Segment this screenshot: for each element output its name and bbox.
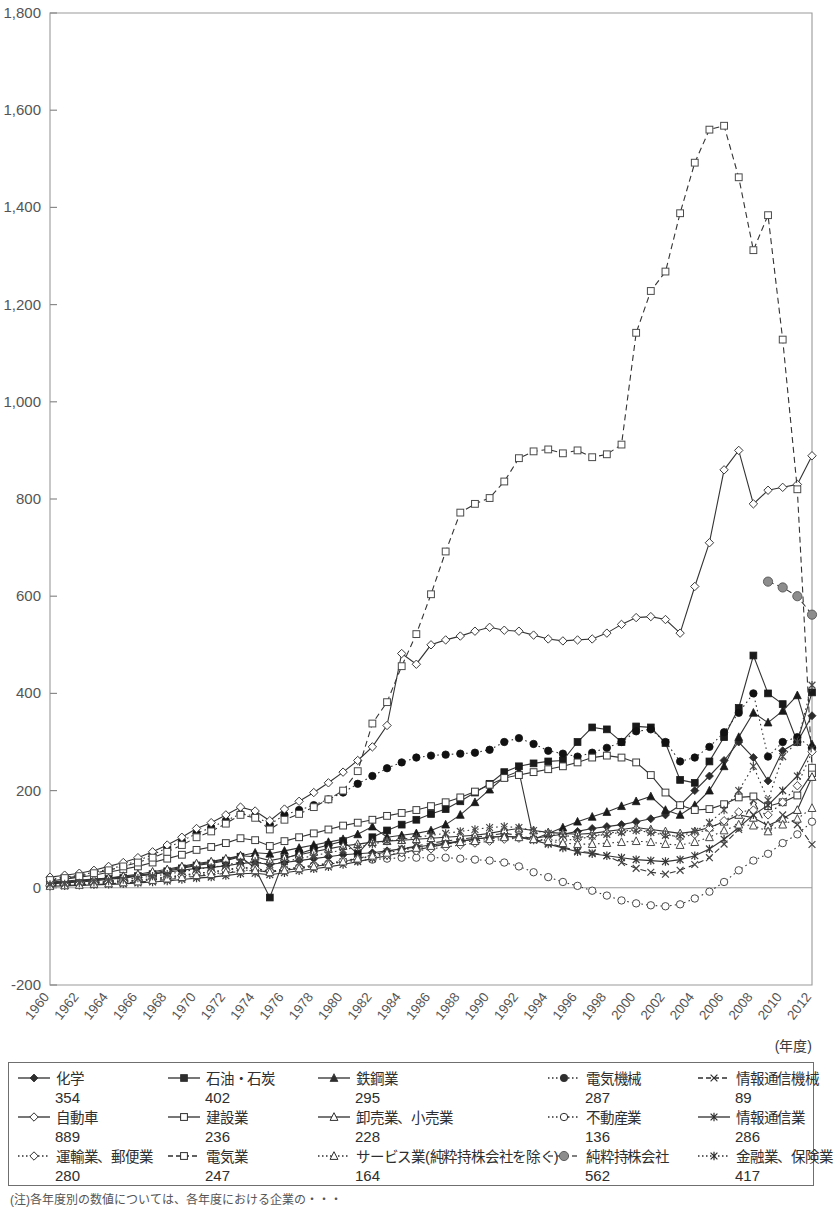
legend-item[interactable]: 電気機械287: [545, 1067, 695, 1106]
data-point-marker: [472, 788, 479, 795]
data-point-marker: [749, 821, 757, 829]
x-tick-label: 2004: [667, 989, 698, 1022]
data-point-marker: [501, 478, 508, 485]
legend-item[interactable]: 石油・石炭402: [165, 1067, 315, 1106]
x-tick-label: 1990: [462, 990, 492, 1023]
data-point-marker: [589, 754, 596, 761]
legend-item-value: 402: [205, 1089, 315, 1106]
data-point-marker: [691, 754, 698, 761]
data-point-marker: [705, 539, 713, 547]
legend-item[interactable]: 自動車889: [15, 1106, 165, 1145]
legend-item[interactable]: 情報通信業286: [695, 1106, 813, 1145]
legend-item[interactable]: 金融業、保険業417: [695, 1145, 813, 1184]
data-point-marker: [603, 726, 610, 733]
data-point-marker: [764, 718, 772, 726]
data-point-marker: [501, 859, 508, 866]
data-point-marker: [793, 691, 801, 699]
data-point-marker: [676, 841, 684, 849]
legend-item[interactable]: サービス業(純粋持株会社を除く)164: [315, 1145, 545, 1184]
data-point-marker: [632, 728, 639, 735]
data-point-marker: [324, 779, 332, 787]
legend-item-label: 石油・石炭: [206, 1067, 275, 1088]
data-point-marker: [369, 772, 376, 779]
data-point-marker: [721, 806, 728, 814]
data-point-marker: [765, 796, 772, 804]
series-14: [763, 577, 816, 619]
data-point-marker: [735, 733, 743, 741]
data-point-marker: [617, 620, 625, 628]
data-point-marker: [735, 446, 743, 454]
legend-item[interactable]: 電気業247: [165, 1145, 315, 1184]
data-point-marker: [413, 816, 420, 823]
legend-item[interactable]: 卸売業、小売業228: [315, 1106, 545, 1145]
data-point-marker: [794, 792, 801, 799]
x-tick-label: 1966: [110, 990, 140, 1023]
data-point-marker: [647, 815, 655, 823]
legend-symbol-icon: [697, 1110, 731, 1124]
data-point-marker: [808, 452, 816, 460]
data-point-marker: [208, 828, 215, 835]
data-point-marker: [793, 814, 801, 822]
legend-grid: 化学354石油・石炭402鉄鋼業295電気機械287情報通信機械89自動車889…: [9, 1063, 813, 1185]
legend-item-header: 情報通信業: [697, 1106, 813, 1127]
data-point-marker: [252, 837, 259, 844]
data-point-marker: [662, 840, 670, 848]
data-point-marker: [632, 837, 640, 845]
data-point-marker: [193, 846, 200, 853]
data-point-marker: [662, 903, 669, 910]
data-point-marker: [778, 483, 786, 491]
legend-item-label: 卸売業、小売業: [356, 1106, 453, 1127]
data-point-marker: [573, 636, 581, 644]
legend-item[interactable]: 化学354: [15, 1067, 165, 1106]
data-point-marker: [544, 635, 552, 643]
data-point-marker: [281, 816, 288, 823]
data-point-marker: [589, 454, 596, 461]
data-point-marker: [530, 869, 537, 876]
data-point-marker: [559, 763, 566, 770]
data-point-marker: [545, 766, 552, 773]
data-point-marker: [181, 1152, 188, 1159]
legend-item[interactable]: 純粋持株会社562: [545, 1145, 695, 1184]
data-point-marker: [706, 888, 713, 895]
data-point-marker: [515, 863, 522, 870]
y-tick-label: 1,600: [3, 101, 41, 118]
data-point-marker: [735, 786, 742, 794]
legend-item[interactable]: 不動産業136: [545, 1106, 695, 1145]
chart-legend: 化学354石油・石炭402鉄鋼業295電気機械287情報通信機械89自動車889…: [8, 1062, 814, 1186]
data-point-marker: [529, 631, 537, 639]
data-point-marker: [779, 839, 786, 846]
legend-item-header: 鉄鋼業: [317, 1067, 545, 1088]
data-point-marker: [456, 811, 464, 819]
legend-item[interactable]: 鉄鋼業295: [315, 1067, 545, 1106]
legend-item-label: 純粋持株会社: [586, 1145, 669, 1166]
data-point-marker: [721, 835, 728, 843]
data-point-marker: [369, 720, 376, 727]
legend-item[interactable]: 運輸業、郵便業280: [15, 1145, 165, 1184]
data-point-marker: [691, 895, 698, 902]
data-point-marker: [354, 780, 361, 787]
legend-symbol-icon: [17, 1071, 51, 1085]
data-point-marker: [618, 897, 625, 904]
data-point-marker: [749, 709, 757, 717]
data-point-marker: [778, 583, 787, 592]
data-point-marker: [442, 806, 449, 813]
data-point-marker: [296, 834, 303, 841]
data-point-marker: [735, 794, 742, 801]
legend-item[interactable]: 情報通信機械89: [695, 1067, 813, 1106]
legend-item-value: 287: [585, 1089, 695, 1106]
data-point-marker: [354, 768, 361, 775]
legend-item-header: 電気機械: [547, 1067, 695, 1088]
series-12: [47, 122, 816, 883]
data-point-marker: [178, 842, 185, 849]
legend-item-header: 純粋持株会社: [547, 1145, 695, 1166]
data-point-marker: [340, 787, 347, 794]
data-point-marker: [471, 749, 478, 756]
data-point-marker: [603, 451, 610, 458]
data-point-marker: [30, 1151, 38, 1159]
data-point-marker: [676, 758, 683, 765]
data-point-marker: [181, 1113, 188, 1120]
legend-item[interactable]: 建設業236: [165, 1106, 315, 1145]
legend-item-label: サービス業(純粋持株会社を除く): [356, 1145, 558, 1166]
data-point-marker: [794, 486, 801, 493]
